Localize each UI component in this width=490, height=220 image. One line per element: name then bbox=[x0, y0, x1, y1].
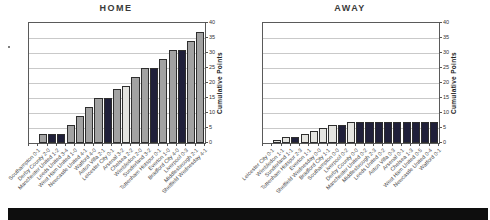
x-axis-tick bbox=[410, 143, 411, 146]
y-axis-tick bbox=[439, 127, 442, 128]
x-axis-tick bbox=[56, 143, 57, 146]
bar bbox=[421, 122, 429, 143]
bar bbox=[403, 122, 411, 143]
y-tick-label: 15 bbox=[443, 94, 449, 100]
x-axis-tick bbox=[84, 143, 85, 146]
bar bbox=[141, 68, 149, 143]
x-axis-tick bbox=[364, 143, 365, 146]
y-axis-tick bbox=[439, 97, 442, 98]
x-axis-tick bbox=[308, 143, 309, 146]
y-tick-label: 35 bbox=[443, 34, 449, 40]
y-tick-label: 40 bbox=[209, 19, 215, 25]
y-tick-label: 0 bbox=[209, 139, 212, 145]
bar bbox=[104, 98, 112, 143]
y-axis-tick bbox=[205, 142, 208, 143]
bar bbox=[319, 128, 327, 143]
bar bbox=[122, 86, 130, 143]
x-axis-tick bbox=[167, 143, 168, 146]
y-tick-label: 30 bbox=[443, 49, 449, 55]
bar bbox=[67, 125, 75, 143]
bar bbox=[384, 122, 392, 143]
x-axis-tick bbox=[111, 143, 112, 146]
x-axis-tick bbox=[65, 143, 66, 146]
x-axis-tick bbox=[318, 143, 319, 146]
y-tick-label: 0 bbox=[443, 139, 446, 145]
x-axis-tick bbox=[158, 143, 159, 146]
home-chart-title: HOME bbox=[28, 3, 204, 13]
y-tick-label: 25 bbox=[443, 64, 449, 70]
y-axis-tick bbox=[205, 52, 208, 53]
bar bbox=[301, 134, 309, 143]
y-axis-tick bbox=[205, 82, 208, 83]
stray-mark bbox=[8, 46, 10, 48]
x-axis-tick bbox=[139, 143, 140, 146]
x-axis-tick bbox=[382, 143, 383, 146]
y-tick-label: 35 bbox=[209, 34, 215, 40]
gridline bbox=[263, 113, 439, 114]
x-axis-tick bbox=[47, 143, 48, 146]
bar bbox=[169, 50, 177, 143]
bar bbox=[356, 122, 364, 143]
x-axis-tick bbox=[355, 143, 356, 146]
y-tick-label: 20 bbox=[443, 79, 449, 85]
x-axis-tick bbox=[74, 143, 75, 146]
bar bbox=[113, 89, 121, 143]
x-axis-tick bbox=[28, 143, 29, 146]
x-axis-tick bbox=[185, 143, 186, 146]
away-plot-area bbox=[262, 22, 440, 144]
screenshot-canvas: HOME 0510152025303540 Cumulative Points … bbox=[0, 0, 490, 220]
x-axis-tick bbox=[299, 143, 300, 146]
y-axis-tick bbox=[439, 22, 442, 23]
gridline bbox=[263, 83, 439, 84]
y-tick-label: 5 bbox=[209, 124, 212, 130]
y-axis-tick bbox=[439, 67, 442, 68]
y-tick-label: 40 bbox=[443, 19, 449, 25]
x-axis-tick bbox=[290, 143, 291, 146]
y-axis-tick bbox=[205, 37, 208, 38]
y-tick-label: 15 bbox=[209, 94, 215, 100]
y-axis-tick bbox=[205, 112, 208, 113]
x-axis-tick bbox=[419, 143, 420, 146]
gridline bbox=[263, 53, 439, 54]
x-axis-tick bbox=[271, 143, 272, 146]
home-y-axis-title: Cumulative Points bbox=[216, 38, 223, 128]
bar bbox=[57, 134, 65, 143]
x-axis-tick bbox=[204, 143, 205, 146]
x-axis-tick bbox=[262, 143, 263, 146]
bar bbox=[375, 122, 383, 143]
x-axis-tick bbox=[93, 143, 94, 146]
y-tick-label: 25 bbox=[209, 64, 215, 70]
y-tick-label: 5 bbox=[443, 124, 446, 130]
gridline bbox=[263, 98, 439, 99]
bar bbox=[196, 32, 204, 143]
bar bbox=[178, 50, 186, 143]
x-axis-tick bbox=[102, 143, 103, 146]
bar bbox=[159, 59, 167, 143]
bar bbox=[131, 77, 139, 143]
home-plot-area bbox=[28, 22, 206, 144]
bar bbox=[310, 131, 318, 143]
bar bbox=[85, 107, 93, 143]
y-axis-tick bbox=[205, 22, 208, 23]
gridline bbox=[263, 38, 439, 39]
bar bbox=[76, 116, 84, 143]
gridline bbox=[263, 68, 439, 69]
x-axis-tick bbox=[373, 143, 374, 146]
y-tick-label: 10 bbox=[209, 109, 215, 115]
away-chart: AWAY 0510152025303540 Cumulative Points … bbox=[234, 0, 479, 220]
y-axis-tick bbox=[205, 127, 208, 128]
bar bbox=[365, 122, 373, 143]
y-axis-tick bbox=[439, 37, 442, 38]
x-axis-tick bbox=[327, 143, 328, 146]
x-axis-tick bbox=[281, 143, 282, 146]
x-axis-tick bbox=[345, 143, 346, 146]
x-axis-tick bbox=[438, 143, 439, 146]
bar bbox=[393, 122, 401, 143]
bar bbox=[347, 122, 355, 143]
y-axis-tick bbox=[439, 142, 442, 143]
bar bbox=[39, 134, 47, 143]
x-axis-tick bbox=[401, 143, 402, 146]
y-axis-tick bbox=[439, 112, 442, 113]
x-axis-tick bbox=[37, 143, 38, 146]
x-axis-tick bbox=[195, 143, 196, 146]
